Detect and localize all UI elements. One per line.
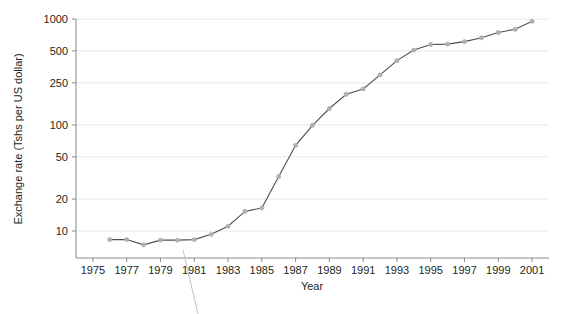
x-tick-label: 2001 (520, 264, 544, 276)
data-point-marker (496, 30, 500, 34)
data-point-marker (192, 237, 196, 241)
data-point-marker (378, 73, 382, 77)
x-tick-label: 1983 (216, 264, 240, 276)
data-point-marker (108, 237, 112, 241)
chart-canvas: 1020501002505001000 19751977197919811983… (0, 0, 563, 314)
data-point-marker (158, 238, 162, 242)
x-axis-title: Year (301, 280, 324, 292)
x-tick-label: 1991 (351, 264, 375, 276)
y-tick-labels-group: 1020501002505001000 (44, 13, 68, 237)
data-point-marker (412, 48, 416, 52)
y-tickmarks-group (72, 19, 76, 231)
x-tickmarks-group (93, 258, 532, 262)
data-point-marker (327, 106, 331, 110)
data-point-marker (361, 87, 365, 91)
data-point-marker (226, 224, 230, 228)
data-point-marker (445, 42, 449, 46)
y-axis-title: Exchange rate (Tshs per US dollar) (12, 53, 24, 224)
x-tick-label: 1979 (148, 264, 172, 276)
x-tick-labels-group: 1975197719791981198319851987198919911993… (81, 264, 545, 276)
data-point-marker (141, 243, 145, 247)
exchange-rate-line (110, 21, 532, 245)
x-tick-label: 1995 (419, 264, 443, 276)
y-tick-label: 500 (50, 45, 68, 57)
data-point-marker (344, 92, 348, 96)
x-tick-label: 1989 (317, 264, 341, 276)
x-tick-label: 1999 (486, 264, 510, 276)
data-point-marker (124, 237, 128, 241)
x-tick-label: 1993 (385, 264, 409, 276)
exchange-rate-chart-figure: 1020501002505001000 19751977197919811983… (0, 0, 563, 314)
data-point-marker (243, 209, 247, 213)
x-tick-label: 1977 (114, 264, 138, 276)
x-tick-label: 1985 (250, 264, 274, 276)
data-point-marker (260, 206, 264, 210)
data-point-marker (462, 39, 466, 43)
x-tick-label: 1975 (81, 264, 105, 276)
annotation-leader-line (183, 250, 198, 314)
x-tick-label: 1987 (283, 264, 307, 276)
data-point-marker (175, 238, 179, 242)
data-point-marker (530, 19, 534, 23)
y-tick-label: 250 (50, 77, 68, 89)
data-point-marker (513, 27, 517, 31)
data-point-marker (209, 232, 213, 236)
y-tick-label: 50 (56, 151, 68, 163)
data-point-markers-group (108, 19, 535, 247)
y-tick-label: 20 (56, 193, 68, 205)
data-point-marker (395, 58, 399, 62)
data-point-marker (277, 174, 281, 178)
y-tick-label: 1000 (44, 13, 68, 25)
x-tick-label: 1981 (182, 264, 206, 276)
data-point-marker (293, 143, 297, 147)
data-point-marker (479, 36, 483, 40)
y-tick-label: 100 (50, 119, 68, 131)
x-tick-label: 1997 (452, 264, 476, 276)
data-point-marker (429, 42, 433, 46)
y-tick-label: 10 (56, 225, 68, 237)
data-point-marker (310, 123, 314, 127)
